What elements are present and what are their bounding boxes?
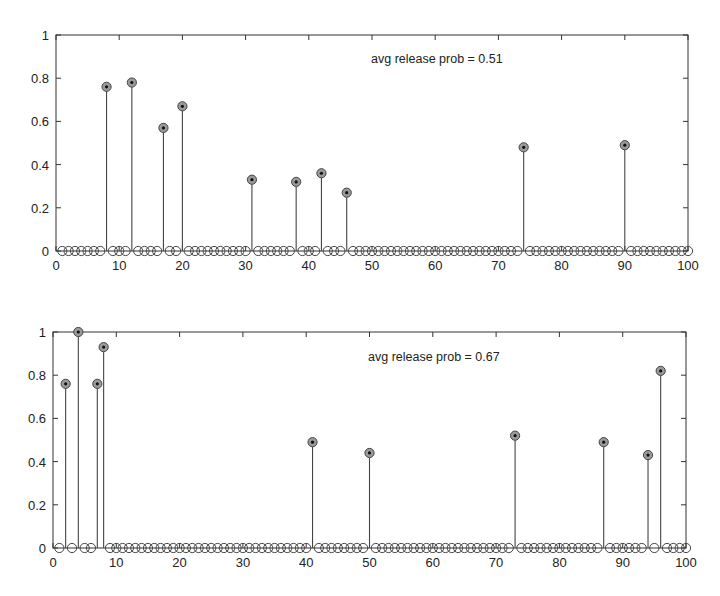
asterisk-marker-icon — [311, 441, 314, 444]
asterisk-marker-icon — [96, 382, 99, 385]
asterisk-marker-icon — [181, 105, 184, 108]
x-tick-label: 20 — [172, 555, 186, 570]
y-tick-label: 0.2 — [28, 498, 46, 513]
x-tick-label: 100 — [675, 555, 697, 570]
x-tick-label: 20 — [175, 258, 189, 273]
asterisk-marker-icon — [130, 81, 133, 84]
asterisk-marker-icon — [295, 180, 298, 183]
y-tick-label: 0.8 — [28, 368, 46, 383]
top-plot-annotation: avg release prob = 0.51 — [371, 52, 503, 66]
x-tick-label: 50 — [362, 555, 376, 570]
top-stem-plot: 010203040506070809010000.20.40.60.81 avg… — [31, 28, 699, 273]
x-tick-label: 70 — [489, 555, 503, 570]
y-tick-label: 0.4 — [28, 455, 46, 470]
x-tick-label: 30 — [236, 555, 250, 570]
asterisk-marker-icon — [368, 451, 371, 454]
y-tick-label: 0.2 — [31, 201, 49, 216]
top-plot-stems — [58, 78, 693, 256]
y-tick-label: 1 — [42, 28, 49, 43]
y-tick-label: 0 — [39, 541, 46, 556]
asterisk-marker-icon — [102, 346, 105, 349]
figure: 010203040506070809010000.20.40.60.81 avg… — [0, 0, 720, 596]
y-tick-label: 0.8 — [31, 71, 49, 86]
asterisk-marker-icon — [345, 191, 348, 194]
asterisk-marker-icon — [64, 382, 67, 385]
bottom-stem-plot: 010203040506070809010000.20.40.60.81 avg… — [28, 325, 697, 570]
x-tick-label: 50 — [365, 258, 379, 273]
x-tick-label: 90 — [618, 258, 632, 273]
bottom-plot-axes: 010203040506070809010000.20.40.60.81 — [28, 325, 697, 570]
asterisk-marker-icon — [659, 369, 662, 372]
y-tick-label: 0 — [42, 244, 49, 259]
x-tick-label: 30 — [238, 258, 252, 273]
asterisk-marker-icon — [77, 330, 80, 333]
x-tick-label: 80 — [554, 258, 568, 273]
x-tick-label: 90 — [615, 555, 629, 570]
x-tick-label: 0 — [49, 555, 56, 570]
x-tick-label: 0 — [52, 258, 59, 273]
asterisk-marker-icon — [105, 85, 108, 88]
asterisk-marker-icon — [162, 126, 165, 129]
y-tick-label: 0.6 — [31, 114, 49, 129]
x-tick-label: 80 — [552, 555, 566, 570]
y-tick-label: 0.4 — [31, 158, 49, 173]
x-tick-label: 40 — [302, 258, 316, 273]
x-tick-label: 10 — [112, 258, 126, 273]
asterisk-marker-icon — [513, 434, 516, 437]
bottom-plot-annotation: avg release prob = 0.67 — [368, 350, 500, 364]
asterisk-marker-icon — [623, 144, 626, 147]
plot-frame — [56, 35, 688, 251]
y-tick-label: 1 — [39, 325, 46, 340]
x-tick-label: 60 — [426, 555, 440, 570]
x-tick-label: 60 — [428, 258, 442, 273]
x-tick-label: 100 — [677, 258, 699, 273]
asterisk-marker-icon — [522, 146, 525, 149]
asterisk-marker-icon — [646, 454, 649, 457]
x-tick-label: 70 — [491, 258, 505, 273]
asterisk-marker-icon — [320, 172, 323, 175]
asterisk-marker-icon — [250, 178, 253, 181]
x-tick-label: 10 — [109, 555, 123, 570]
top-plot-axes: 010203040506070809010000.20.40.60.81 — [31, 28, 699, 273]
y-tick-label: 0.6 — [28, 411, 46, 426]
asterisk-marker-icon — [602, 441, 605, 444]
x-tick-label: 40 — [299, 555, 313, 570]
